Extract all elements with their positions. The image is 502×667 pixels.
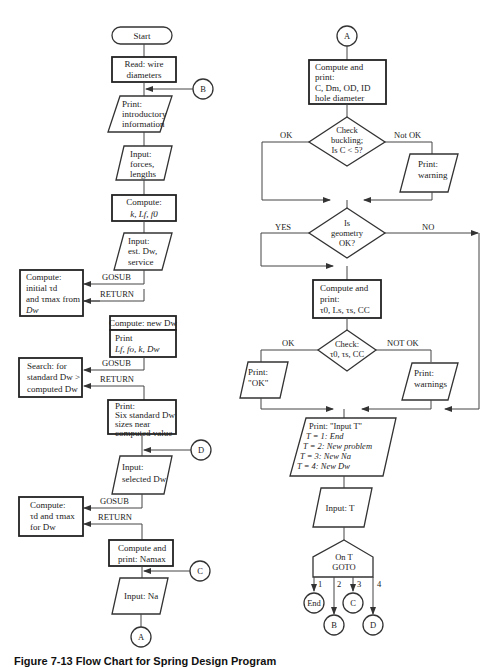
svg-text:YES: YES [275,222,291,232]
input-selected-io: Input: selected Dw [112,456,172,494]
svg-text:NO: NO [422,222,434,232]
svg-text:1: 1 [318,579,322,589]
svg-text:Dw: Dw [25,305,39,315]
svg-text:Compute and: Compute and [315,62,364,72]
svg-text:forces,: forces, [130,159,154,169]
svg-text:print: Namax: print: Namax [118,554,166,564]
svg-text:Compute and: Compute and [320,283,369,293]
print-ok-io: Print: "OK" [240,362,288,398]
svg-text:lengths: lengths [130,169,156,179]
connector-d-out: D [363,615,383,635]
check-tau-decision: Check: τ0, τs, CC [318,330,376,371]
svg-text:Print:: Print: [414,368,434,378]
svg-text:geometry: geometry [331,228,364,238]
svg-text:3: 3 [357,579,361,589]
svg-text:NOT OK: NOT OK [387,338,420,348]
connector-a-out: A [131,627,151,647]
svg-text:Print: "Input T": Print: "Input T" [309,421,362,431]
on-t-goto-branch: On T GOTO [313,540,373,577]
svg-text:Compute:: Compute: [26,272,62,282]
svg-text:initial τd: initial τd [26,283,58,293]
svg-text:C: C [197,566,203,576]
svg-text:computed Dw: computed Dw [27,384,78,394]
svg-text:Input:: Input: [122,462,144,472]
svg-text:warnings: warnings [414,379,447,389]
connector-a-in: A [337,26,357,46]
svg-text:B: B [331,620,337,630]
svg-text:Print:: Print: [248,367,268,377]
svg-text:"OK": "OK" [248,378,269,388]
connector-c-out: C [343,593,363,613]
svg-text:GOSUB: GOSUB [100,496,129,506]
subroutine-tau-dw: Compute: τd and τmax for Dw [19,497,83,536]
svg-text:Print:: Print: [418,159,438,169]
svg-text:Compute:: Compute: [30,500,66,510]
svg-text:and τmax from: and τmax from [26,294,80,304]
subroutine-initial-tau: Compute: initial τd and τmax from Dw [20,270,83,316]
input-t-io: Input: T [313,488,372,527]
svg-text:OK?: OK? [339,238,355,248]
svg-text:τ0, τs, CC: τ0, τs, CC [330,349,365,359]
svg-text:Print: Print [115,333,133,343]
connector-d-in: D [191,440,211,460]
svg-text:A: A [344,31,351,41]
figure-caption: Figure 7-13 Flow Chart for Spring Design… [14,655,276,667]
svg-text:Input: T: Input: T [325,503,355,513]
svg-text:Compute:: Compute: [126,197,162,207]
svg-text:τ0, Ls, τs, CC: τ0, Ls, τs, CC [320,305,370,315]
start-terminal: Start [112,27,172,44]
svg-text:C: C [350,598,356,608]
print-intro-io: Print: introductory information [108,96,172,132]
svg-text:information: information [122,119,165,129]
svg-text:est. Dw,: est. Dw, [128,246,157,256]
svg-text:RETURN: RETURN [98,512,132,522]
svg-text:Is C < 5?: Is C < 5? [332,145,363,155]
svg-text:buckling;: buckling; [331,135,363,145]
svg-text:print:: print: [320,294,340,304]
svg-text:On T: On T [335,552,353,562]
svg-text:Print:: Print: [122,99,142,109]
svg-text:Search: for: Search: for [27,361,67,371]
check-buckling-decision: Check buckling; Is C < 5? [309,117,385,166]
svg-text:Compute and: Compute and [118,543,167,553]
svg-text:computed value: computed value [115,428,172,438]
svg-text:B: B [200,84,206,94]
compute-k-box: Compute: k, Lf, f0 [112,195,176,221]
compute-new-dw-box: Compute: new Dw Print Lf, fo, k, Dw [109,316,177,357]
end-terminal: End [304,593,324,613]
subroutine-search-standard: Search: for standard Dw > computed Dw [19,358,82,397]
compute-na-box: Compute and print: Namax [109,540,173,566]
svg-text:Input: Na: Input: Na [124,591,158,601]
read-wire-box: Read: wire diameters [112,57,176,82]
svg-text:End: End [307,598,321,608]
compute-c-box: Compute and print: C, Dm, OD, ID hole di… [309,60,386,104]
print-warnings-io: Print: warnings [402,363,458,400]
svg-text:k, Lf, f0: k, Lf, f0 [130,209,158,219]
svg-text:hole diameter: hole diameter [315,93,364,103]
connector-c-in: C [190,561,210,581]
svg-text:T = 3: New Na: T = 3: New Na [300,451,351,461]
svg-text:GOTO: GOTO [332,562,355,572]
print-six-standard-box: Print: Six standard Dw sizes near comput… [108,400,176,438]
svg-text:selected Dw: selected Dw [122,474,167,484]
svg-text:τd and τmax: τd and τmax [30,511,75,521]
svg-text:2: 2 [337,579,341,589]
svg-text:warning: warning [418,170,448,180]
geometry-decision: Is geometry OK? [309,208,385,258]
svg-text:D: D [370,620,376,630]
svg-text:OK: OK [280,130,293,140]
svg-text:for Dw: for Dw [30,522,56,532]
input-na-io: Input: Na [112,578,168,614]
svg-text:Compute: new Dw: Compute: new Dw [109,318,177,328]
svg-text:Input:: Input: [128,236,150,246]
svg-text:Not OK: Not OK [394,130,422,140]
svg-text:Start: Start [134,31,151,41]
connector-b-out: B [324,615,344,635]
svg-text:RETURN: RETURN [100,289,134,299]
svg-text:standard Dw >: standard Dw > [27,372,80,382]
svg-text:Is: Is [344,218,350,228]
compute-tau-box: Compute and print: τ0, Ls, τs, CC [313,280,381,318]
svg-text:introductory: introductory [122,109,167,119]
input-est-io: Input: est. Dw, service [114,233,172,270]
svg-text:T = 2: New problem: T = 2: New problem [303,441,372,451]
